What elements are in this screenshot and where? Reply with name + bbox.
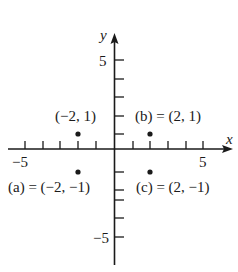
point-a-neg2-neg1	[75, 169, 80, 174]
x-min-tick-label: −5	[12, 154, 28, 170]
y-axis-label: y	[98, 27, 107, 43]
point-label-a: (a) = (−2, −1)	[8, 179, 90, 196]
x-max-tick-label: 5	[199, 154, 207, 170]
y-max-tick-label: 5	[99, 53, 107, 69]
y-min-tick-label: −5	[93, 230, 109, 246]
point-label-neg2-1: (−2, 1)	[55, 108, 96, 125]
point-c-2-neg1	[147, 169, 152, 174]
point-label-c: (c) = (2, −1)	[136, 179, 210, 196]
coordinate-plane: y x 5 −5 −5 5 (−2, 1) (b) = (2, 1) (a) =…	[0, 0, 238, 272]
point-neg2-1	[75, 131, 80, 136]
point-b-2-1	[147, 131, 152, 136]
x-axis-label: x	[225, 131, 233, 147]
point-label-b: (b) = (2, 1)	[135, 108, 201, 125]
